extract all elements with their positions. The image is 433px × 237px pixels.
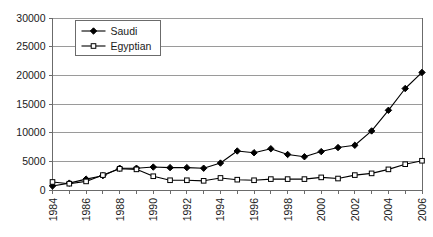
data-point-egyptian-1986 xyxy=(84,179,89,184)
data-point-egyptian-1987 xyxy=(101,173,106,178)
legend-marker-egyptian xyxy=(91,44,96,49)
series-line-saudi xyxy=(53,72,423,186)
x-tick-label-1998: 1998 xyxy=(282,198,294,222)
x-tick-label-1988: 1988 xyxy=(114,198,126,222)
data-point-egyptian-2002 xyxy=(353,173,358,178)
data-point-egyptian-2003 xyxy=(369,171,374,176)
data-point-egyptian-1999 xyxy=(302,177,307,182)
legend-label-saudi: Saudi xyxy=(111,25,138,37)
series-egyptian xyxy=(50,158,424,186)
y-tick-label-10000: 10000 xyxy=(16,126,45,138)
line-chart: 0500010000150002000025000300001984198619… xyxy=(0,0,433,237)
x-ticks: 1984198619881990199219941996199820002002… xyxy=(47,190,429,221)
data-point-egyptian-1991 xyxy=(168,178,173,183)
y-ticks: 050001000015000200002500030000 xyxy=(16,12,52,196)
y-tick-label-5000: 5000 xyxy=(22,155,46,167)
data-point-saudi-2001 xyxy=(335,144,341,150)
x-tick-label-2000: 2000 xyxy=(315,198,327,222)
chart-canvas: 0500010000150002000025000300001984198619… xyxy=(0,0,433,237)
x-tick-label-1992: 1992 xyxy=(181,198,193,222)
data-point-saudi-1990 xyxy=(150,164,156,170)
x-tick-label-1986: 1986 xyxy=(80,198,92,222)
x-tick-label-2006: 2006 xyxy=(416,198,428,222)
data-point-egyptian-1996 xyxy=(252,178,257,183)
data-point-saudi-2000 xyxy=(318,148,324,154)
data-point-egyptian-1988 xyxy=(117,166,122,171)
legend: SaudiEgyptian xyxy=(76,21,161,56)
x-tick-label-2004: 2004 xyxy=(382,198,394,222)
data-point-saudi-1997 xyxy=(268,146,274,152)
data-point-egyptian-1998 xyxy=(285,177,290,182)
data-point-egyptian-1990 xyxy=(151,174,156,179)
y-tick-label-15000: 15000 xyxy=(16,98,45,110)
data-point-egyptian-2001 xyxy=(336,176,341,181)
data-point-egyptian-1994 xyxy=(218,176,223,181)
x-tick-label-1996: 1996 xyxy=(248,198,260,222)
data-point-egyptian-1997 xyxy=(269,177,274,182)
data-point-egyptian-1992 xyxy=(185,178,190,183)
data-point-egyptian-1989 xyxy=(134,167,139,172)
data-point-egyptian-2004 xyxy=(386,167,391,172)
x-tick-label-2002: 2002 xyxy=(349,198,361,222)
y-tick-label-30000: 30000 xyxy=(16,12,45,24)
data-point-saudi-1992 xyxy=(184,164,190,170)
data-point-saudi-1999 xyxy=(301,154,307,160)
data-point-saudi-1993 xyxy=(200,165,206,171)
data-point-egyptian-1985 xyxy=(67,181,72,186)
data-point-egyptian-2000 xyxy=(319,175,324,180)
data-point-saudi-1996 xyxy=(251,150,257,156)
data-point-saudi-1991 xyxy=(167,164,173,170)
x-tick-label-1984: 1984 xyxy=(47,198,59,222)
y-tick-label-20000: 20000 xyxy=(16,69,45,81)
legend-label-egyptian: Egyptian xyxy=(111,40,152,52)
y-tick-label-0: 0 xyxy=(40,184,46,196)
data-point-egyptian-2006 xyxy=(420,158,425,163)
x-tick-label-1990: 1990 xyxy=(147,198,159,222)
x-tick-label-1994: 1994 xyxy=(214,198,226,222)
data-point-egyptian-1995 xyxy=(235,177,240,182)
data-point-saudi-1998 xyxy=(284,151,290,157)
y-tick-label-25000: 25000 xyxy=(16,40,45,52)
data-point-egyptian-1984 xyxy=(50,180,55,185)
data-point-egyptian-2005 xyxy=(403,162,408,167)
data-point-egyptian-1993 xyxy=(201,179,206,184)
